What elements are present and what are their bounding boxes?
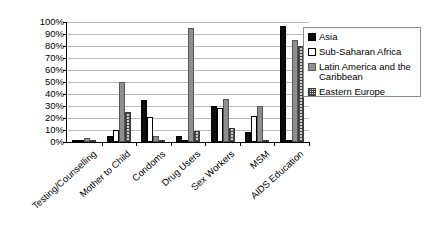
x-axis-label-text: MSM [247,148,271,171]
bar-cluster [67,22,102,142]
y-tick-label: 90% [45,29,64,39]
y-tick-label: 30% [45,101,64,111]
x-axis-labels: Testing/CounsellingMother to ChildCondom… [66,146,316,246]
y-tick-label: 60% [45,65,64,75]
legend-item[interactable]: Sub-Saharan Africa [308,47,417,57]
legend-swatch-icon [308,33,316,41]
bar [194,131,200,142]
legend-swatch-icon [308,63,316,71]
y-tick-label: 100% [40,17,64,27]
legend-label: Eastern Europe [319,87,385,97]
y-tick-label: 20% [45,113,64,123]
y-tick-label: 0% [50,137,64,147]
bar [280,26,286,142]
y-tick-label: 10% [45,125,64,135]
legend-swatch-icon [308,88,316,96]
y-axis-labels: 100%90%80%70%60%50%40%30%20%10%0% [26,22,64,142]
legend-label: Sub-Saharan Africa [319,47,401,57]
legend-item[interactable]: Asia [308,32,417,42]
y-tick-label: 50% [45,77,64,87]
legend-label: Latin America and the Caribbean [319,62,417,82]
bar [263,140,269,142]
bar [90,140,96,142]
y-tick-label: 70% [45,53,64,63]
y-tick-label: 80% [45,41,64,51]
y-tick-mark [63,142,67,143]
legend-label: Asia [319,32,337,42]
chart-legend: AsiaSub-Saharan AfricaLatin America and … [303,27,421,97]
bar [159,140,165,142]
bar-chart: 100%90%80%70%60%50%40%30%20%10%0% Testin… [0,0,428,252]
legend-item[interactable]: Eastern Europe [308,87,417,97]
y-tick-label: 40% [45,89,64,99]
legend-swatch-icon [308,48,316,56]
legend-item[interactable]: Latin America and the Caribbean [308,62,417,82]
